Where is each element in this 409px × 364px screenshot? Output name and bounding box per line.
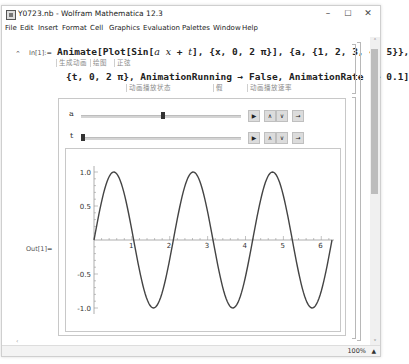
x-tick-label: 5 (280, 242, 284, 250)
x-tick-label: 4 (243, 242, 248, 250)
input-cell-bracket[interactable] (352, 44, 356, 94)
control-t-label: t (70, 131, 73, 140)
input-label: In[1]:= (29, 49, 52, 57)
output-label: Out[1]= (26, 245, 52, 253)
x-tick-label: 3 (205, 242, 209, 250)
menu-evaluation[interactable]: Evaluation (143, 24, 180, 32)
menu-cell[interactable]: Cell (90, 24, 103, 32)
x-tick-label: 2 (167, 242, 171, 250)
y-tick-label: -0.5 (77, 271, 91, 279)
plot-frame: 123456-1.0-0.50.51.0 (65, 148, 341, 332)
code-plus: + (171, 46, 188, 57)
menu-window[interactable]: Window (213, 24, 241, 32)
window-title: Y0723.nb - Wolfram Mathematica 12.3 (18, 9, 163, 18)
y-tick-label: -1.0 (77, 305, 91, 313)
code-symbol-a: a (154, 46, 160, 57)
scroll-up-arrow[interactable]: ˄ (370, 37, 380, 44)
menu-graphics[interactable]: Graphics (109, 24, 140, 32)
play-a-button[interactable]: ▶ (248, 110, 260, 122)
zoom-level[interactable]: 100% (347, 347, 366, 355)
hint-animation-rate: 动画播放速率 (247, 84, 292, 92)
x-tick-label: 1 (129, 242, 133, 250)
y-tick-label: 0.5 (80, 203, 91, 211)
hint-animate: 生成动画 (56, 59, 87, 67)
control-a-label: a (69, 109, 74, 118)
mathematica-window: Y0723.nb - Wolfram Mathematica 12.3 – ☐ … (1, 5, 381, 357)
cell-fold-icon[interactable]: ⌃ (15, 50, 21, 58)
menu-insert[interactable]: Insert (38, 24, 58, 32)
group-cell-bracket[interactable] (357, 42, 361, 341)
y-tick-label: 1.0 (80, 169, 91, 177)
direction-t-button[interactable]: → (292, 132, 304, 144)
code-fn: Animate[Plot[Sin[ (57, 46, 154, 57)
output-cell-bracket[interactable] (352, 97, 356, 339)
slower-t-button[interactable]: ∨ (276, 132, 288, 144)
scroll-left-arrow[interactable]: ‹ (16, 337, 18, 344)
direction-a-button[interactable]: → (292, 110, 304, 122)
menu-edit[interactable]: Edit (20, 24, 34, 32)
zoom-menu-icon[interactable]: ▲ (371, 347, 376, 354)
menu-bar: File Edit Insert Format Cell Graphics Ev… (2, 23, 380, 35)
minimize-button[interactable]: – (320, 7, 336, 20)
plot-axes (94, 166, 334, 314)
plot-tick-labels: 123456-1.0-0.50.51.0 (77, 169, 323, 313)
menu-file[interactable]: File (5, 24, 17, 32)
faster-t-button[interactable]: ∧ (264, 132, 276, 144)
mathematica-app-icon (6, 10, 16, 20)
hint-sin: 正弦 (114, 59, 131, 67)
vertical-scrollbar[interactable]: ˄ ˅ (370, 37, 380, 345)
slider-t-track[interactable] (81, 137, 241, 140)
maximize-button[interactable]: ☐ (340, 7, 356, 20)
x-tick-label: 6 (318, 242, 323, 250)
menu-palettes[interactable]: Palettes (182, 24, 210, 32)
hint-animation-running: 动画播放状态 (126, 84, 171, 92)
faster-a-button[interactable]: ∧ (264, 110, 276, 122)
slider-a-thumb[interactable] (161, 112, 165, 119)
notebook-area[interactable]: ⌃ In[1]:= Animate[Plot[Sin[a x + t], {x,… (7, 37, 367, 345)
menu-help[interactable]: Help (242, 24, 258, 32)
slower-a-button[interactable]: ∨ (276, 110, 288, 122)
slider-t-thumb[interactable] (81, 134, 85, 141)
sin-plot: 123456-1.0-0.50.51.0 (66, 149, 340, 331)
close-button[interactable]: ✕ (360, 7, 376, 20)
hint-false: 假 (213, 84, 223, 92)
scroll-down-arrow[interactable]: ˅ (370, 338, 380, 345)
menu-format[interactable]: Format (62, 24, 87, 32)
play-t-button[interactable]: ▶ (248, 132, 260, 144)
hint-plot: 绘图 (90, 59, 107, 67)
status-bar: 100% ▲ (2, 345, 380, 356)
title-bar: Y0723.nb - Wolfram Mathematica 12.3 – ☐ … (2, 6, 380, 22)
animate-panel: a ▶ ∧ ∨ → t ▶ ∧ ∨ → 123456-1.0-0.50.51.0 (58, 98, 346, 336)
vertical-scroll-thumb[interactable] (371, 49, 378, 194)
